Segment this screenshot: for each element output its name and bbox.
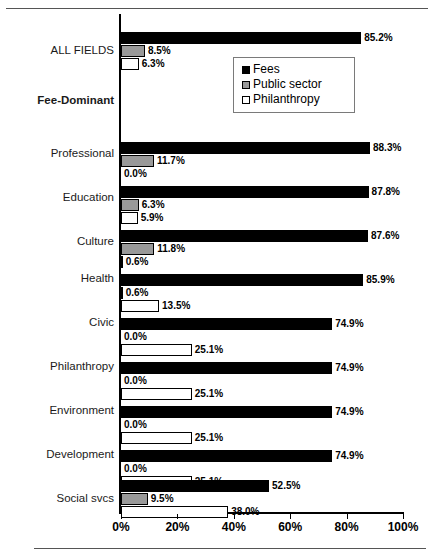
bar-public — [121, 45, 145, 57]
bar-stack: 74.9%0.0%25.1% — [121, 362, 434, 401]
bar-value-label: 85.2% — [364, 31, 392, 44]
bar-public — [121, 199, 139, 211]
legend-item: Public sector — [242, 77, 348, 92]
bar-fees — [121, 318, 332, 330]
bar-fees — [121, 230, 368, 242]
bar-row: 9.5% — [121, 493, 434, 506]
bar-value-label: 0.0% — [124, 167, 147, 180]
x-tick-label: 0% — [91, 520, 151, 534]
legend-item: Fees — [242, 62, 348, 77]
category-label-development: Development — [2, 448, 114, 461]
chart-legend: FeesPublic sectorPhilanthropy — [233, 57, 355, 113]
bar-row: 25.1% — [121, 432, 434, 445]
bar-row: 25.1% — [121, 344, 434, 357]
bar-row: 74.9% — [121, 450, 434, 463]
bar-row: 11.7% — [121, 155, 434, 168]
bar-value-label: 25.1% — [195, 431, 223, 444]
bar-row: 13.5% — [121, 300, 434, 313]
bar-value-label: 74.9% — [335, 317, 363, 330]
bar-fees — [121, 142, 370, 154]
x-tick-label: 80% — [317, 520, 377, 534]
category-label-education: Education — [2, 191, 114, 204]
bar-fees — [121, 32, 361, 44]
bar-value-label: 9.5% — [151, 492, 174, 505]
bar-value-label: 88.3% — [373, 141, 401, 154]
x-tick-label: 100% — [373, 520, 433, 534]
bar-value-label: 25.1% — [195, 343, 223, 356]
bar-public — [121, 287, 123, 299]
bar-phil — [121, 256, 123, 268]
category-label-all-fields: ALL FIELDS — [2, 44, 114, 57]
bar-stack: 88.3%11.7%0.0% — [121, 142, 434, 181]
legend-swatch-icon — [242, 81, 250, 89]
legend-label: Public sector — [253, 77, 322, 92]
bar-phil — [121, 212, 138, 224]
legend-swatch-icon — [242, 96, 250, 104]
category-label-social-svcs: Social svcs — [2, 492, 114, 505]
bar-row: 25.1% — [121, 388, 434, 401]
bar-fees — [121, 274, 363, 286]
bar-value-label: 11.8% — [157, 242, 185, 255]
x-tick-label: 20% — [147, 520, 207, 534]
bar-public — [121, 493, 148, 505]
bar-stack: 87.8%6.3%5.9% — [121, 186, 434, 225]
bar-stack: 87.6%11.8%0.6% — [121, 230, 434, 269]
bar-row: 74.9% — [121, 318, 434, 331]
bar-value-label: 74.9% — [335, 405, 363, 418]
x-tick-label: 40% — [204, 520, 264, 534]
page-bottom-rule — [34, 548, 426, 549]
bar-fees — [121, 362, 332, 374]
bar-value-label: 6.3% — [142, 57, 165, 70]
bar-row: 38.0% — [121, 506, 434, 519]
bar-value-label: 74.9% — [335, 449, 363, 462]
bar-row: 0.0% — [121, 331, 434, 344]
bar-phil — [121, 344, 192, 356]
category-label-civic: Civic — [2, 316, 114, 329]
bar-fees — [121, 406, 332, 418]
bar-row: 0.0% — [121, 463, 434, 476]
bar-stack: 74.9%0.0%25.1% — [121, 406, 434, 445]
bar-value-label: 0.0% — [124, 462, 147, 475]
bar-phil — [121, 388, 192, 400]
bar-row: 6.3% — [121, 199, 434, 212]
bar-value-label: 5.9% — [141, 211, 164, 224]
x-tick-mark — [347, 514, 348, 519]
bar-value-label: 87.6% — [371, 229, 399, 242]
bar-row: 0.6% — [121, 256, 434, 269]
bar-value-label: 87.8% — [372, 185, 400, 198]
bar-row: 87.8% — [121, 186, 434, 199]
bar-value-label: 74.9% — [335, 361, 363, 374]
legend-label: Philanthropy — [253, 92, 320, 107]
page-top-rule — [6, 8, 428, 9]
bar-row: 5.9% — [121, 212, 434, 225]
category-label-environment: Environment — [2, 404, 114, 417]
bar-phil — [121, 506, 228, 518]
bar-value-label: 25.1% — [195, 387, 223, 400]
bar-public — [121, 155, 154, 167]
bar-phil — [121, 58, 139, 70]
bar-value-label: 0.0% — [124, 330, 147, 343]
x-tick-label: 60% — [260, 520, 320, 534]
x-tick-mark — [177, 514, 178, 519]
bar-row: 11.8% — [121, 243, 434, 256]
bar-fees — [121, 186, 369, 198]
bar-chart: ALL FIELDS85.2%8.5%6.3%Fee-DominantProfe… — [0, 14, 434, 514]
bar-stack: 85.9%0.6%13.5% — [121, 274, 434, 313]
bar-value-label: 0.6% — [126, 255, 149, 268]
bar-value-label: 13.5% — [162, 299, 190, 312]
bar-row: 0.0% — [121, 168, 434, 181]
legend-swatch-icon — [242, 66, 250, 74]
bar-row: 0.0% — [121, 375, 434, 388]
bar-fees — [121, 480, 269, 492]
bar-row: 85.9% — [121, 274, 434, 287]
x-tick-mark — [290, 514, 291, 519]
bar-value-label: 0.0% — [124, 418, 147, 431]
bar-value-label: 0.6% — [126, 286, 149, 299]
x-tick-mark — [234, 514, 235, 519]
category-label-philanthropy: Philanthropy — [2, 360, 114, 373]
bar-value-label: 85.9% — [366, 273, 394, 286]
category-label-culture: Culture — [2, 235, 114, 248]
bar-stack: 52.5%9.5%38.0% — [121, 480, 434, 519]
bar-value-label: 52.5% — [272, 479, 300, 492]
bar-phil — [121, 432, 192, 444]
